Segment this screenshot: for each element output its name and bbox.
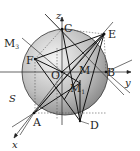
m1-sub: 1	[81, 88, 85, 95]
point-a	[33, 112, 36, 115]
label-d: D	[90, 119, 99, 132]
point-o	[61, 71, 63, 73]
label-m: M	[79, 64, 90, 77]
label-e: E	[108, 28, 116, 41]
point-f	[34, 58, 36, 60]
surface-label: S	[9, 93, 16, 104]
z-axis-label: z	[55, 10, 62, 21]
label-o: O	[51, 69, 60, 82]
d-leader	[80, 121, 89, 124]
m3-letter: M	[4, 37, 15, 50]
sphere-diagram: z y x S C E B F O A D M M1 M3	[0, 0, 140, 151]
label-f: F	[26, 54, 34, 67]
point-e	[103, 33, 106, 36]
label-c: C	[64, 22, 72, 35]
x-axis-label: x	[12, 139, 18, 150]
m3-sub: 3	[15, 43, 19, 50]
point-c	[61, 28, 64, 31]
m1-letter: M	[70, 82, 81, 95]
y-arrow-icon	[127, 71, 131, 74]
label-b: B	[107, 66, 115, 79]
m-letter: M	[79, 64, 90, 77]
label-a: A	[32, 116, 42, 129]
y-axis-label: y	[124, 77, 131, 88]
label-m3: M3	[4, 37, 19, 50]
